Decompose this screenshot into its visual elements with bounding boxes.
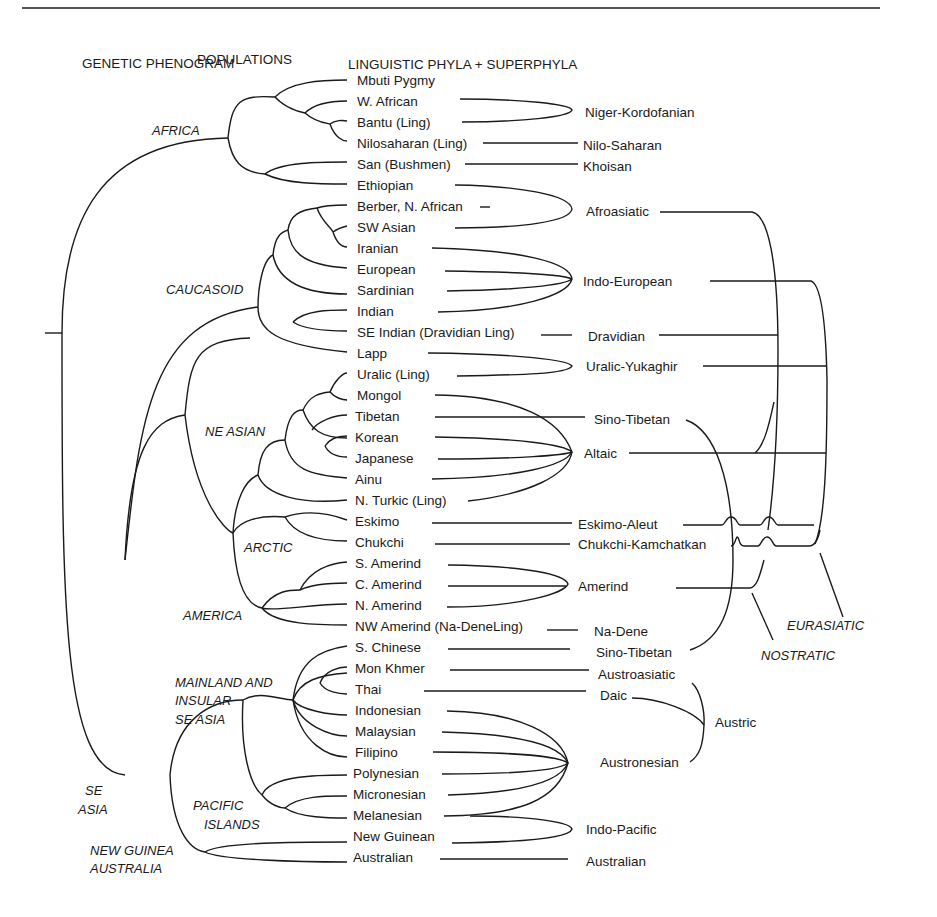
population-label: SE Indian (Dravidian Ling) (357, 325, 515, 340)
header-linguistic-phyla: LINGUISTIC PHYLA + SUPERPHYLA (348, 57, 577, 72)
phylum-sino-tibetan: Sino-Tibetan (596, 645, 672, 660)
phylum-sino-tibetan: Sino-Tibetan (594, 412, 670, 427)
superphylum-eurasiatic: EURASIATIC (787, 618, 865, 633)
population-label: Berber, N. African (357, 199, 463, 214)
population-label: Malaysian (355, 724, 416, 739)
phylum-indo-european: Indo-European (583, 274, 672, 289)
population-label: S. Chinese (355, 640, 421, 655)
phylum-altaic: Altaic (584, 446, 617, 461)
population-label: Uralic (Ling) (357, 367, 430, 382)
group-africa: AFRICA (151, 123, 200, 138)
population-label: C. Amerind (355, 577, 422, 592)
population-label: Polynesian (353, 766, 419, 781)
phylum-chukchi-kamchatkan: Chukchi-Kamchatkan (578, 537, 706, 552)
phylum-austroasiatic: Austroasiatic (598, 667, 676, 682)
population-label: Mongol (357, 388, 401, 403)
population-label: Indonesian (355, 703, 421, 718)
population-label: Indian (357, 304, 394, 319)
group-se-asia: ASIA (77, 802, 108, 817)
phylum-dravidian: Dravidian (588, 329, 645, 344)
phylum-afroasiatic: Afroasiatic (586, 204, 649, 219)
population-label: Mon Khmer (355, 661, 425, 676)
population-label: Japanese (355, 451, 414, 466)
group-mainland: INSULAR (175, 693, 231, 708)
group-caucasoid: CAUCASOID (166, 282, 243, 297)
group-pacific-islands: ISLANDS (204, 817, 260, 832)
population-label: Micronesian (353, 787, 426, 802)
group-ne-asian: NE ASIAN (205, 424, 266, 439)
phylum-amerind: Amerind (578, 579, 628, 594)
population-label: Australian (353, 850, 413, 865)
group-se-asia: SE (85, 783, 103, 798)
phylum-indo-pacific: Indo-Pacific (586, 822, 657, 837)
population-label: Thai (355, 682, 381, 697)
population-list: Mbuti Pygmy W. African Bantu (Ling) Nilo… (353, 73, 523, 865)
population-label: Melanesian (353, 808, 422, 823)
population-label: European (357, 262, 416, 277)
population-label: Ethiopian (357, 178, 413, 193)
group-new-guinea-australia: AUSTRALIA (89, 861, 162, 876)
population-label: N. Amerind (355, 598, 422, 613)
population-label: Nilosaharan (Ling) (357, 136, 467, 151)
phenogram-tree (45, 80, 347, 862)
population-label: Korean (355, 430, 399, 445)
population-label: Tibetan (355, 409, 400, 424)
group-mainland: MAINLAND AND (175, 675, 273, 690)
population-label: Eskimo (355, 514, 399, 529)
population-label: Sardinian (357, 283, 414, 298)
phylum-daic: Daic (600, 688, 627, 703)
population-label: Bantu (Ling) (357, 115, 431, 130)
population-label: Iranian (357, 241, 398, 256)
population-label: W. African (357, 94, 418, 109)
group-america: AMERICA (182, 608, 242, 623)
superphylum-nostratic: NOSTRATIC (761, 648, 836, 663)
population-label: Mbuti Pygmy (357, 73, 435, 88)
group-labels: AFRICA CAUCASOID NE ASIAN ARCTIC AMERICA… (77, 123, 293, 876)
header-populations: POPULATIONS (197, 52, 292, 67)
population-label: Lapp (357, 346, 387, 361)
population-label: SW Asian (357, 220, 416, 235)
group-pacific-islands: PACIFIC (193, 798, 244, 813)
population-label: San (Bushmen) (357, 157, 451, 172)
population-label: S. Amerind (355, 556, 421, 571)
phylum-australian: Australian (586, 854, 646, 869)
phenogram-figure: GENETIC PHENOGRAM POPULATIONS LINGUISTIC… (0, 0, 937, 917)
phylum-na-dene: Na-Dene (594, 624, 648, 639)
population-label: Ainu (355, 472, 382, 487)
population-label: New Guinean (353, 829, 435, 844)
phylum-niger-kordofanian: Niger-Kordofanian (585, 105, 695, 120)
phylum-austronesian: Austronesian (600, 755, 679, 770)
population-label: NW Amerind (Na-DeneLing) (355, 619, 523, 634)
phylum-eskimo-aleut: Eskimo-Aleut (578, 517, 658, 532)
phylum-khoisan: Khoisan (583, 159, 632, 174)
phylum-uralic-yukaghir: Uralic-Yukaghir (586, 359, 678, 374)
population-label: N. Turkic (Ling) (355, 493, 447, 508)
phyla-labels: Niger-Kordofanian Nilo-Saharan Khoisan A… (578, 105, 865, 869)
phylum-austric: Austric (715, 715, 757, 730)
group-arctic: ARCTIC (243, 540, 293, 555)
group-new-guinea-australia: NEW GUINEA (90, 843, 174, 858)
population-label: Chukchi (355, 535, 404, 550)
population-label: Filipino (355, 745, 398, 760)
phylum-nilo-saharan: Nilo-Saharan (583, 138, 662, 153)
